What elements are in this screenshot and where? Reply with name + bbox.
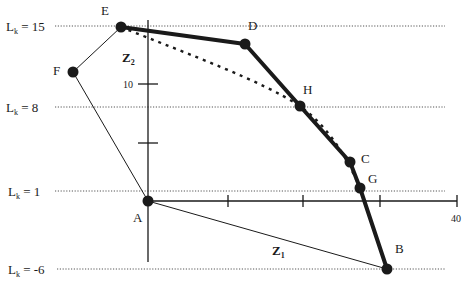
point-b xyxy=(382,264,393,275)
z1-tick-label: 40 xyxy=(451,213,461,224)
line-e-f-a xyxy=(73,27,148,201)
point-a xyxy=(143,196,154,207)
z2-tick-label: 10 xyxy=(123,79,133,90)
level-label-8: Lk = 8 xyxy=(6,100,38,117)
point-e xyxy=(116,22,127,33)
point-f xyxy=(68,67,79,78)
point-h xyxy=(295,101,306,112)
level-lines xyxy=(55,26,445,269)
points xyxy=(68,22,393,275)
level-labels: Lk = 15 Lk = 8 Lk = 1 Lk = -6 xyxy=(6,19,45,279)
point-d xyxy=(240,39,251,50)
label-d: D xyxy=(248,18,257,33)
level-label-1: Lk = 1 xyxy=(8,184,40,201)
z1-axis-label: Z1 xyxy=(272,243,285,260)
level-label-15: Lk = 15 xyxy=(6,19,45,36)
point-g xyxy=(355,183,366,194)
label-b: B xyxy=(395,241,404,256)
label-f: F xyxy=(53,63,60,78)
z2-axis-label: Z2 xyxy=(122,50,135,67)
label-e: E xyxy=(101,3,109,18)
label-a: A xyxy=(133,210,143,225)
line-a-b xyxy=(148,201,387,269)
pareto-diagram: Lk = 15 Lk = 8 Lk = 1 Lk = -6 10 40 Z2 Z… xyxy=(0,0,470,288)
point-c xyxy=(345,157,356,168)
level-label-neg6: Lk = -6 xyxy=(8,262,45,279)
thick-frontier xyxy=(121,27,387,269)
label-g: G xyxy=(368,171,377,186)
axes xyxy=(138,20,457,262)
label-c: C xyxy=(361,151,370,166)
label-h: H xyxy=(303,82,312,97)
